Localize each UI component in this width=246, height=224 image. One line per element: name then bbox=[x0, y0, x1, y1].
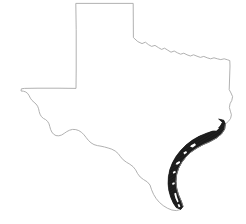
texas-map-svg bbox=[0, 0, 246, 224]
texas-map-figure: Texas Dark diagonally hatched band follo… bbox=[0, 0, 246, 224]
texas-state-outline bbox=[21, 3, 233, 210]
